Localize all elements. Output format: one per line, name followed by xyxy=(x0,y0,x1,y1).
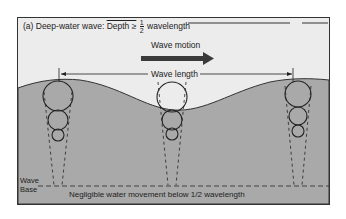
wave-base-label-1: Wave xyxy=(20,176,39,185)
negligible-movement-label: Negligible water movement below 1/2 wave… xyxy=(69,190,245,199)
title-prefix: (a) Deep-water wave: xyxy=(23,21,104,31)
title-condition: Depth ≥ xyxy=(107,21,137,31)
title-suffix: wavelength xyxy=(147,21,190,31)
wave-length-label: Wave length xyxy=(150,69,199,79)
wave-base-label-2: Base xyxy=(20,185,37,194)
wave-motion-arrow xyxy=(141,52,214,65)
wave-motion-label: Wave motion xyxy=(151,40,200,50)
fraction: 12 xyxy=(140,19,144,34)
diagram-title: (a) Deep-water wave: Depth ≥ 12 waveleng… xyxy=(23,19,190,34)
water-body xyxy=(18,79,329,204)
